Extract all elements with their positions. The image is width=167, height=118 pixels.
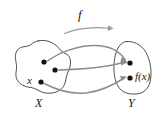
mapping-arrow-2: [59, 60, 128, 70]
point-x2: [52, 67, 57, 72]
function-label: f: [78, 8, 82, 21]
function-arrow-head-icon: [108, 25, 114, 31]
diagram-canvas: [0, 0, 167, 118]
point-x-element: [38, 79, 43, 84]
set-x-outline: [15, 40, 70, 93]
set-y-label: Y: [128, 97, 135, 109]
point-x-label: x: [27, 75, 32, 86]
set-y-outline: [114, 41, 151, 94]
point-x1: [41, 59, 46, 64]
point-fx-label: f(x): [135, 71, 150, 82]
point-y1: [127, 60, 132, 65]
mapping-arrow-2-curve: [59, 62, 126, 70]
mapping-arrow-3-curve: [44, 78, 125, 94]
function-arrow-curve: [65, 28, 109, 34]
set-x-label: X: [35, 97, 42, 109]
mapping-arrow-3: [44, 76, 127, 93]
point-fx-element: [127, 75, 132, 80]
function-mapping-diagram: f x f(x) X Y: [0, 0, 167, 118]
function-arrow-group: [65, 25, 114, 33]
